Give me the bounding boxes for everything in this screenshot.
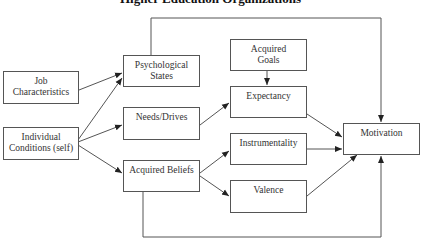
node-label: Job xyxy=(4,76,78,87)
node-label: Acquired Beliefs xyxy=(124,165,199,176)
node-motivation: Motivation xyxy=(343,123,420,155)
node-label: Conditions (self) xyxy=(4,143,78,154)
node-acquired-goals: Acquired Goals xyxy=(230,39,307,71)
edge-beliefs-to-instrumentality xyxy=(200,151,229,173)
node-label: Valence xyxy=(231,185,306,196)
edges-layer xyxy=(0,0,421,242)
edge-beliefs-to-valence xyxy=(200,176,229,196)
node-label: States xyxy=(124,71,199,82)
node-label: Instrumentality xyxy=(231,138,306,149)
node-label: Acquired xyxy=(231,44,306,55)
node-individual-conditions: Individual Conditions (self) xyxy=(3,127,79,160)
node-valence: Valence xyxy=(230,180,307,213)
edge-individual-to-needs xyxy=(78,125,122,142)
node-label: Expectancy xyxy=(231,91,306,102)
node-label: Psychological xyxy=(124,60,199,71)
node-acquired-beliefs: Acquired Beliefs xyxy=(123,160,200,192)
node-psychological-states: Psychological States xyxy=(123,55,200,87)
node-label: Individual xyxy=(4,132,78,143)
edge-individual-to-beliefs xyxy=(78,145,122,173)
node-label: Characteristics xyxy=(4,87,78,98)
node-label: Motivation xyxy=(344,128,419,139)
node-label: Goals xyxy=(231,55,306,66)
node-label: Needs/Drives xyxy=(124,112,199,123)
edge-needs-to-expectancy xyxy=(200,103,229,125)
edge-expectancy-to-motivation xyxy=(307,114,342,137)
node-needs-drives: Needs/Drives xyxy=(123,107,200,140)
edge-valence-to-motivation xyxy=(307,155,357,196)
node-instrumentality: Instrumentality xyxy=(230,133,307,165)
node-expectancy: Expectancy xyxy=(230,86,307,118)
node-job-characteristics: Job Characteristics xyxy=(3,71,79,104)
